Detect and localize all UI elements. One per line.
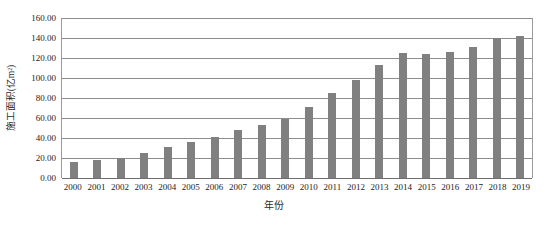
x-tick-label: 2017 (462, 180, 486, 196)
bar (211, 137, 219, 178)
bar (234, 130, 242, 178)
x-tick-label: 2008 (250, 180, 274, 196)
y-tick-label: 60.00 (36, 114, 56, 123)
bar (328, 93, 336, 178)
bar-chart: 施工面积(亿m²) 160.00140.00120.00100.0080.006… (0, 0, 547, 227)
bar (305, 107, 313, 178)
y-tick-label: 40.00 (36, 134, 56, 143)
bar-slot (86, 18, 110, 178)
x-axis-tick-labels: 2000200120022003200420052006200720082009… (61, 180, 533, 196)
bar-slot (391, 18, 415, 178)
x-tick-label: 2016 (439, 180, 463, 196)
y-axis-title: 施工面积(亿m²) (2, 18, 18, 178)
bar (93, 160, 101, 178)
bar-slot (250, 18, 274, 178)
bar-slot (133, 18, 157, 178)
x-tick-label: 2005 (179, 180, 203, 196)
bar-slot (109, 18, 133, 178)
bar (422, 54, 430, 178)
bar (399, 53, 407, 178)
bar-slot (321, 18, 345, 178)
x-tick-label: 2011 (321, 180, 345, 196)
x-axis-title: 年份 (0, 197, 547, 212)
bar-slot (438, 18, 462, 178)
x-tick-label: 2003 (132, 180, 156, 196)
y-axis-title-text: 施工面积(亿m²) (3, 65, 17, 132)
y-tick-label: 160.00 (31, 14, 56, 23)
bar (375, 65, 383, 178)
bar-slot (509, 18, 533, 178)
bar (469, 47, 477, 178)
y-tick-label: 20.00 (36, 154, 56, 163)
x-tick-label: 2004 (155, 180, 179, 196)
bar (493, 38, 501, 178)
y-tick-label: 0.00 (40, 174, 56, 183)
bar (446, 52, 454, 178)
bar (516, 36, 524, 178)
x-tick-label: 2006 (203, 180, 227, 196)
y-axis-tick-labels: 160.00140.00120.00100.0080.0060.0040.002… (18, 18, 60, 178)
x-tick-label: 2002 (108, 180, 132, 196)
bar-slot (415, 18, 439, 178)
bar-slot (368, 18, 392, 178)
bar (140, 153, 148, 178)
bar (70, 162, 78, 178)
bars-layer (62, 18, 532, 178)
bar-slot (156, 18, 180, 178)
axis-baseline (62, 178, 532, 179)
x-tick-label: 2001 (85, 180, 109, 196)
plot-area (61, 18, 533, 178)
x-tick-label: 2014 (391, 180, 415, 196)
bar (187, 142, 195, 178)
bar (258, 125, 266, 178)
bar-slot (227, 18, 251, 178)
bar-slot (462, 18, 486, 178)
y-tick-label: 100.00 (31, 74, 56, 83)
bar-slot (344, 18, 368, 178)
y-tick-label: 80.00 (36, 94, 56, 103)
bar-slot (297, 18, 321, 178)
bar-slot (62, 18, 86, 178)
bar (281, 119, 289, 178)
y-tick-label: 140.00 (31, 34, 56, 43)
bar (164, 147, 172, 178)
x-tick-label: 2000 (61, 180, 85, 196)
bar (117, 158, 125, 178)
bar (352, 80, 360, 178)
bar-slot (180, 18, 204, 178)
bar-slot (274, 18, 298, 178)
x-tick-label: 2013 (368, 180, 392, 196)
y-tick-label: 120.00 (31, 54, 56, 63)
x-tick-label: 2018 (486, 180, 510, 196)
bar-slot (203, 18, 227, 178)
x-tick-label: 2015 (415, 180, 439, 196)
x-tick-label: 2009 (273, 180, 297, 196)
bar-slot (485, 18, 509, 178)
x-tick-label: 2012 (344, 180, 368, 196)
x-tick-label: 2007 (226, 180, 250, 196)
x-tick-label: 2019 (509, 180, 533, 196)
x-tick-label: 2010 (297, 180, 321, 196)
